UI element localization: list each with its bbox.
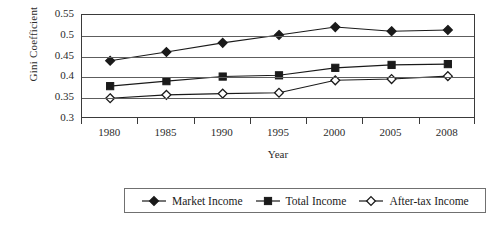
x-tick bbox=[137, 118, 138, 124]
x-tick-label: 2000 bbox=[306, 126, 362, 138]
y-tick-label: 0.35 bbox=[36, 91, 74, 102]
y-tick-label: 0.55 bbox=[36, 8, 74, 19]
legend-item: Market Income bbox=[141, 195, 243, 207]
data-point bbox=[218, 89, 227, 98]
x-tick-label: 2008 bbox=[419, 126, 475, 138]
x-tick-label: 1990 bbox=[194, 126, 250, 138]
gridline bbox=[82, 77, 474, 78]
data-point bbox=[163, 78, 170, 85]
data-point bbox=[444, 60, 451, 67]
legend-label: After-tax Income bbox=[389, 195, 468, 207]
legend-label: Total Income bbox=[286, 195, 347, 207]
x-axis-tick-labels: 1980198519901995200020052008 bbox=[81, 126, 475, 142]
legend-marker-open-diamond-icon bbox=[358, 195, 384, 207]
legend-label: Market Income bbox=[172, 195, 243, 207]
x-tick bbox=[419, 118, 420, 124]
gridline bbox=[82, 36, 474, 37]
legend-item: Total Income bbox=[255, 195, 347, 207]
gini-coefficient-line-chart: Gini Coefficient 0.30.350.40.450.50.55 1… bbox=[0, 0, 502, 229]
data-point bbox=[443, 26, 452, 35]
x-tick-label: 1980 bbox=[81, 126, 137, 138]
data-point bbox=[218, 38, 227, 47]
x-tick bbox=[306, 118, 307, 124]
data-point bbox=[275, 88, 284, 97]
x-tick bbox=[194, 118, 195, 124]
x-tick bbox=[362, 118, 363, 124]
gridline bbox=[82, 98, 474, 99]
data-point bbox=[162, 48, 171, 57]
plot-area bbox=[81, 14, 475, 118]
legend-marker-filled-diamond-icon bbox=[141, 195, 167, 207]
x-tick-label: 2005 bbox=[363, 126, 419, 138]
y-tick-label: 0.45 bbox=[36, 50, 74, 61]
x-tick-label: 1985 bbox=[137, 126, 193, 138]
x-tick bbox=[81, 118, 82, 124]
x-axis-title: Year bbox=[81, 148, 475, 160]
y-tick-label: 0.5 bbox=[36, 29, 74, 40]
x-axis-ticks bbox=[81, 118, 475, 125]
x-tick bbox=[474, 118, 475, 124]
data-point bbox=[443, 72, 452, 81]
gridline bbox=[82, 57, 474, 58]
chart-legend: Market IncomeTotal IncomeAfter-tax Incom… bbox=[124, 188, 486, 213]
y-tick-label: 0.4 bbox=[36, 70, 74, 81]
series-total-income bbox=[107, 60, 452, 89]
x-tick bbox=[250, 118, 251, 124]
legend-item: After-tax Income bbox=[358, 195, 468, 207]
legend-marker-filled-square-icon bbox=[255, 195, 281, 207]
data-point bbox=[106, 56, 115, 65]
data-point bbox=[388, 61, 395, 68]
series-market-income bbox=[106, 23, 453, 65]
data-point bbox=[107, 83, 114, 90]
x-tick-label: 1995 bbox=[250, 126, 306, 138]
series-overlay bbox=[82, 15, 476, 119]
data-point bbox=[387, 75, 396, 84]
data-point bbox=[331, 23, 340, 32]
data-point bbox=[332, 64, 339, 71]
y-tick-label: 0.3 bbox=[36, 112, 74, 123]
y-axis-tick-labels: 0.30.350.40.450.50.55 bbox=[30, 0, 74, 229]
data-point bbox=[387, 27, 396, 36]
